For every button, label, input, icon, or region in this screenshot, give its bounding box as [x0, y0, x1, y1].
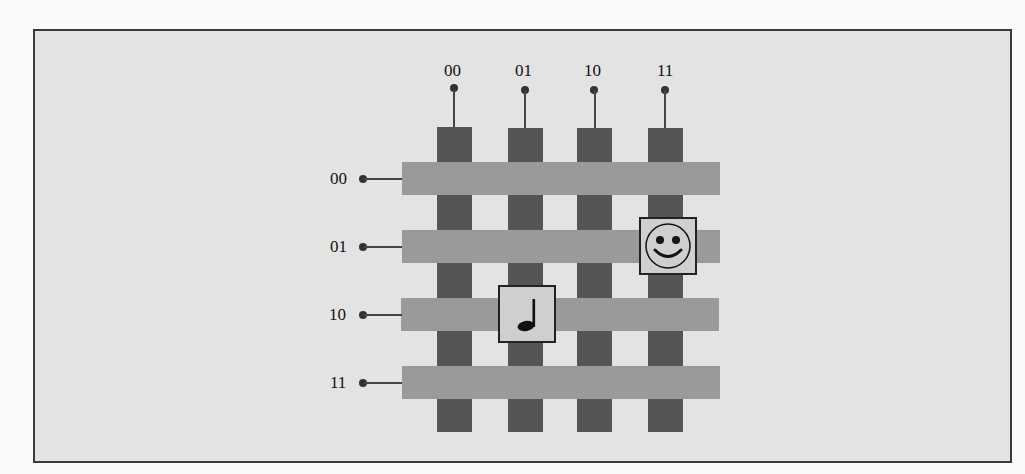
column-lead-00 [453, 90, 455, 127]
column-label-00: 00 [444, 61, 461, 81]
column-label-11: 11 [657, 61, 673, 81]
column-lead-10 [594, 90, 596, 128]
row-lead-01 [364, 246, 402, 248]
column-lead-01 [524, 90, 526, 128]
row-lead-10 [364, 314, 402, 316]
row-lead-11 [364, 382, 402, 384]
column-lead-11 [664, 90, 666, 128]
cell-01-11 [639, 217, 697, 275]
smiley-face-icon [641, 219, 695, 273]
cell-10-01 [498, 285, 556, 343]
column-label-01: 01 [515, 61, 532, 81]
row-wire-11 [402, 366, 720, 399]
music-note-icon [500, 287, 554, 341]
row-label-01: 01 [330, 237, 347, 257]
column-label-10: 10 [584, 61, 601, 81]
row-label-11: 11 [330, 373, 346, 393]
row-wire-00 [402, 162, 720, 195]
row-lead-00 [364, 178, 402, 180]
row-label-10: 10 [329, 305, 346, 325]
row-wire-10 [401, 298, 719, 331]
row-label-00: 00 [330, 169, 347, 189]
